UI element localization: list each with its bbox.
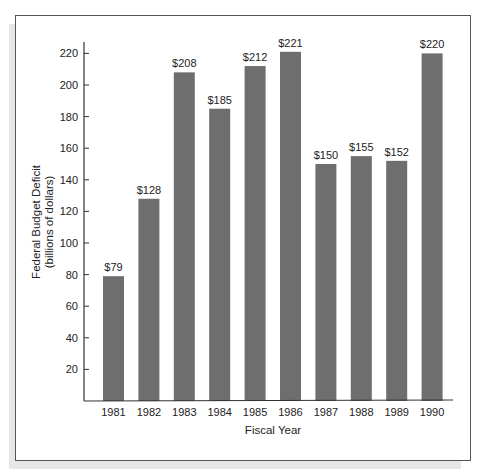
bar-value-label: $220 xyxy=(420,38,444,50)
x-tick-label: 1986 xyxy=(278,406,302,418)
bar-1983 xyxy=(174,72,195,401)
bar-1986 xyxy=(280,52,301,401)
bar-value-label: $150 xyxy=(314,149,338,161)
y-tick-label: 200 xyxy=(60,79,78,91)
y-tick-label: 80 xyxy=(66,269,78,281)
y-axis-title: Federal Budget Deficit xyxy=(30,164,42,279)
x-tick-label: 1985 xyxy=(243,406,267,418)
bar-1985 xyxy=(245,66,266,401)
y-tick-label: 220 xyxy=(60,47,78,59)
y-tick-label: 60 xyxy=(66,300,78,312)
x-axis-title: Fiscal Year xyxy=(245,424,301,436)
bar-value-label: $155 xyxy=(349,141,373,153)
bar-value-label: $152 xyxy=(384,146,408,158)
bar-1989 xyxy=(386,161,407,401)
y-axis-title-group: Federal Budget Deficit (billions of doll… xyxy=(30,164,55,279)
x-tick-label: 1984 xyxy=(207,406,231,418)
y-tick-label: 100 xyxy=(60,237,78,249)
x-tick-label: 1990 xyxy=(420,406,444,418)
y-tick-label: 120 xyxy=(60,205,78,217)
x-tick-label: 1988 xyxy=(349,406,373,418)
bar-value-label: $212 xyxy=(243,51,267,63)
y-tick-label: 180 xyxy=(60,111,78,123)
bar-value-label: $79 xyxy=(104,261,122,273)
x-tick-label: 1987 xyxy=(314,406,338,418)
x-tick-label: 1981 xyxy=(101,406,125,418)
bar-1990 xyxy=(422,53,443,401)
y-tick-label: 40 xyxy=(66,332,78,344)
y-tick-label: 160 xyxy=(60,142,78,154)
y-axis-subtitle: (billions of dollars) xyxy=(43,175,55,268)
bar-value-label: $128 xyxy=(137,184,161,196)
x-tick-label: 1983 xyxy=(172,406,196,418)
bar-1984 xyxy=(209,109,230,401)
y-tick-label: 140 xyxy=(60,174,78,186)
x-tick-label: 1982 xyxy=(137,406,161,418)
x-axis: 1981198219831984198519861987198819891990 xyxy=(84,400,453,418)
y-axis: 20406080100120140160180200220 xyxy=(60,42,89,401)
bar-1987 xyxy=(315,164,336,401)
y-tick-label: 20 xyxy=(66,363,78,375)
bar-chart: $79$128$208$185$212$221$150$155$152$220 … xyxy=(0,0,483,470)
bar-1982 xyxy=(138,199,159,401)
bars-group: $79$128$208$185$212$221$150$155$152$220 xyxy=(103,37,444,401)
bar-1988 xyxy=(351,156,372,401)
bar-value-label: $185 xyxy=(207,94,231,106)
x-tick-label: 1989 xyxy=(384,406,408,418)
bar-value-label: $221 xyxy=(278,37,302,49)
bar-1981 xyxy=(103,276,124,401)
bar-value-label: $208 xyxy=(172,57,196,69)
